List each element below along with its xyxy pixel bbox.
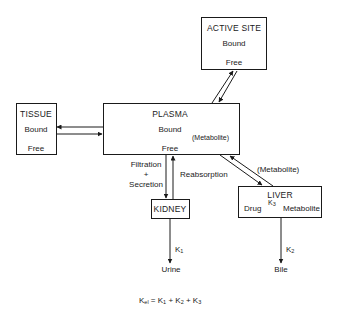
- filtration-label: Filtration: [131, 161, 162, 169]
- tissue-bound: Bound: [24, 126, 47, 134]
- liver-drug: Drug: [244, 205, 261, 213]
- tissue-free: Free: [28, 145, 44, 153]
- plasma-title: PLASMA: [152, 110, 188, 119]
- kidney-title: KIDNEY: [154, 205, 187, 214]
- liver-rate-k3: K3: [268, 199, 276, 208]
- active-site-free: Free: [226, 59, 242, 67]
- k2-label: K2: [286, 246, 294, 255]
- tissue-title: TISSUE: [20, 110, 52, 119]
- arrow-active-site-to-plasma: [219, 71, 237, 102]
- active-site-title: ACTIVE SITE: [207, 24, 261, 33]
- secretion-label: Secretion: [129, 181, 163, 189]
- liver-metabolite: Metabolite: [283, 205, 320, 213]
- bile-label: Bile: [274, 266, 287, 274]
- plasma-bound: Bound: [158, 126, 181, 134]
- plasma-metabolite-note: (Metabolite): [192, 134, 229, 141]
- active-site-bound: Bound: [222, 40, 245, 48]
- reabsorption-label: Reabsorption: [180, 171, 228, 179]
- k1-label: K1: [175, 246, 183, 255]
- metabolite-edge-label: (Metabolite): [257, 166, 299, 174]
- plasma-free: Free: [162, 145, 178, 153]
- arrow-plasma-to-active-site: [212, 71, 233, 103]
- elimination-equation: Kel = K1 + K2 + K3: [139, 297, 201, 306]
- filtration-plus: +: [144, 171, 149, 179]
- urine-label: Urine: [161, 266, 180, 274]
